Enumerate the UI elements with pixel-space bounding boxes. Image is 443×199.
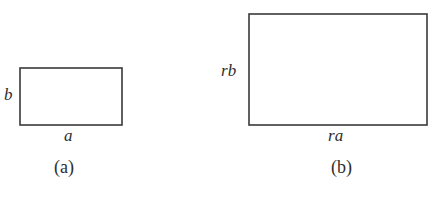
width-label-ra: ra (328, 127, 344, 144)
subfigure-caption-a: (a) (54, 158, 74, 176)
width-label-a: a (64, 127, 73, 144)
rectangle-a (20, 68, 122, 125)
subfigure-caption-b: (b) (331, 158, 352, 176)
rectangle-b (249, 14, 427, 125)
height-label-b: b (4, 86, 13, 103)
height-label-rb: rb (221, 62, 237, 79)
figure-container: b a (a) rb ra (b) (0, 0, 443, 199)
